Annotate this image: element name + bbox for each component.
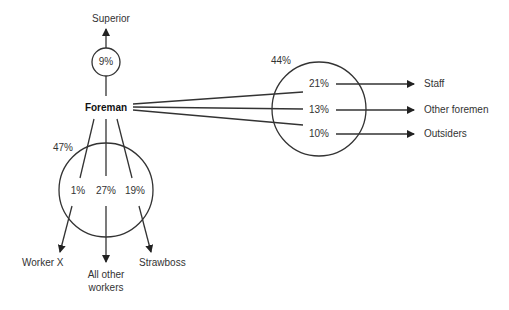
line-to-other-foremen — [133, 107, 303, 109]
strawboss-arrow — [139, 206, 151, 252]
staff-percent: 21% — [309, 78, 329, 90]
superior-percent: 9% — [99, 56, 113, 68]
outsiders-label: Outsiders — [424, 128, 467, 140]
foreman-label: Foreman — [85, 102, 127, 114]
staff-label: Staff — [424, 78, 444, 90]
outsiders-percent: 10% — [309, 128, 329, 140]
strawboss-percent: 19% — [125, 185, 145, 197]
all-other-workers-label-line1: All other — [88, 269, 125, 281]
superior-label: Superior — [92, 13, 130, 25]
lateral-total-percent: 44% — [271, 55, 291, 67]
other-foremen-percent: 13% — [309, 104, 329, 116]
worker-x-percent: 1% — [71, 185, 85, 197]
line-to-outsiders — [133, 110, 303, 125]
subordinates-total-percent: 47% — [53, 142, 73, 154]
line-to-strawboss — [117, 119, 132, 178]
strawboss-label: Strawboss — [139, 257, 186, 269]
line-to-worker-x — [80, 119, 94, 178]
line-to-staff — [133, 92, 303, 104]
all-other-workers-percent: 27% — [96, 185, 116, 197]
diagram-canvas — [0, 0, 509, 310]
all-other-workers-label-line2: workers — [88, 282, 123, 294]
worker-x-label: Worker X — [22, 257, 64, 269]
worker-x-arrow — [60, 206, 72, 252]
other-foremen-label: Other foremen — [424, 104, 488, 116]
